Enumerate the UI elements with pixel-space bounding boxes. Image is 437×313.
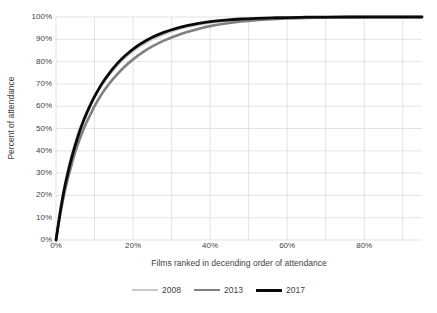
series-line-2017 — [56, 17, 422, 240]
legend-label-2013: 2013 — [224, 286, 243, 295]
x-tick-label: 20% — [125, 242, 141, 250]
chart-figure: 0%10%20%30%40%50%60%70%80%90%100% 0%20%4… — [0, 0, 437, 313]
series-line-2008 — [56, 17, 422, 240]
x-tick-label: 60% — [279, 242, 295, 250]
legend-item-2013[interactable]: 2013 — [194, 286, 243, 295]
x-tick-label: 80% — [356, 242, 372, 250]
legend-swatch-2008 — [132, 289, 158, 291]
series-line-2013 — [56, 17, 422, 240]
legend-label-2017: 2017 — [286, 286, 305, 295]
plot-area — [56, 17, 422, 240]
legend-item-2017[interactable]: 2017 — [256, 286, 305, 295]
y-tick-label: 90% — [6, 35, 52, 43]
y-axis-title: Percent of attendance — [6, 58, 16, 178]
x-tick-label: 0% — [50, 242, 62, 250]
legend-item-2008[interactable]: 2008 — [132, 286, 181, 295]
legend-swatch-2017 — [256, 289, 282, 292]
x-axis-title: Films ranked in decending order of atten… — [56, 258, 422, 268]
legend-label-2008: 2008 — [162, 286, 181, 295]
legend-swatch-2013 — [194, 289, 220, 291]
y-tick-label: 10% — [6, 214, 52, 222]
x-axis-tick-labels: 0%20%40%60%80% — [56, 242, 422, 256]
series-lines — [56, 17, 422, 240]
x-tick-label: 40% — [202, 242, 218, 250]
y-tick-label: 20% — [6, 191, 52, 199]
y-tick-label: 100% — [6, 13, 52, 21]
y-tick-label: 0% — [6, 236, 52, 244]
chart-legend: 200820132017 — [0, 286, 437, 295]
